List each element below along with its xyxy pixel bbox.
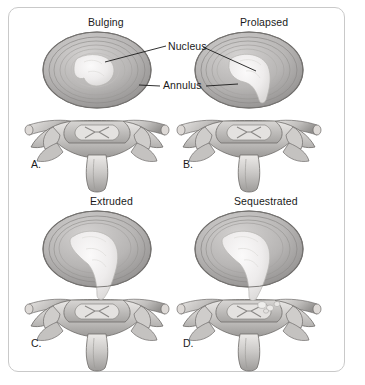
disc-herniation-figure: Nucleus Annulus Bulging Prolapsed Extrud…: [0, 0, 365, 385]
disc-extruded: [43, 211, 151, 299]
panel-b-illustration: [177, 32, 321, 192]
panel-a-illustration: [25, 32, 169, 192]
panel-letter-b: B.: [183, 158, 193, 170]
disc-sequestrated: [195, 211, 303, 313]
illustration-canvas: [0, 0, 365, 385]
panel-c-illustration: [25, 211, 169, 371]
panel-letter-d: D.: [183, 337, 194, 349]
panel-title-extruded: Extruded: [90, 196, 133, 207]
disc-prolapsed: [195, 32, 303, 108]
panel-d-illustration: [177, 211, 321, 371]
panel-title-prolapsed: Prolapsed: [240, 17, 288, 28]
panel-letter-a: A.: [31, 158, 41, 170]
panel-title-sequestrated: Sequestrated: [234, 196, 298, 207]
panel-letter-c: C.: [31, 337, 42, 349]
callout-label-annulus: Annulus: [163, 80, 202, 91]
panel-title-bulging: Bulging: [88, 17, 124, 28]
disc-bulging: [43, 32, 151, 108]
callout-label-nucleus: Nucleus: [168, 41, 207, 52]
